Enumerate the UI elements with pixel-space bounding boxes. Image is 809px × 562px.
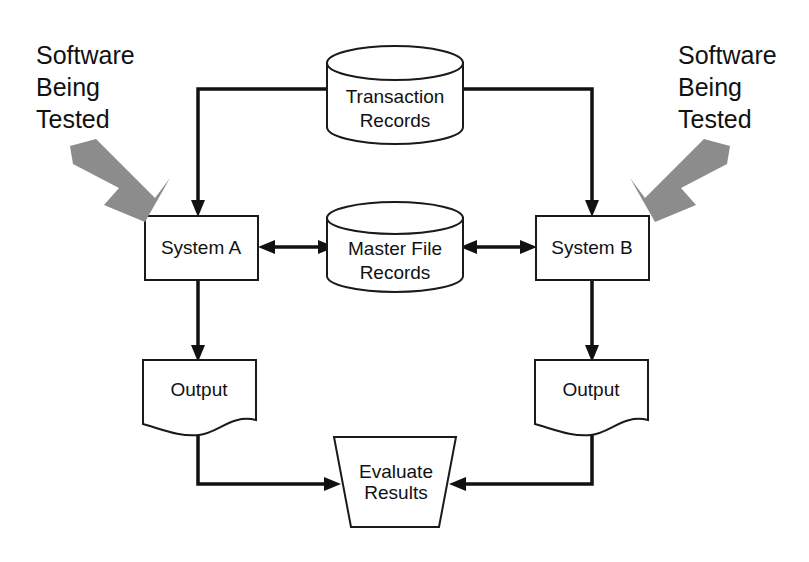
- annotation-left-line-1: Software: [36, 41, 135, 69]
- node-system-a-label: System A: [161, 237, 242, 258]
- annotation-right-line-3: Tested: [678, 105, 752, 133]
- node-system-b-label: System B: [551, 237, 632, 258]
- node-transaction-records-label-line-2: Records: [360, 110, 431, 131]
- node-output-a-label: Output: [170, 379, 228, 400]
- node-transaction-records[interactable]: Transaction Records: [327, 46, 463, 144]
- node-evaluate-results[interactable]: Evaluate Results: [334, 437, 456, 527]
- annotation-left-line-2: Being: [36, 73, 100, 101]
- annotation-right-line-2: Being: [678, 73, 742, 101]
- diagram-root: Transaction Records Master File Records …: [0, 0, 809, 562]
- node-system-b[interactable]: System B: [536, 216, 649, 280]
- annotation-left-line-3: Tested: [36, 105, 110, 133]
- node-transaction-records-label-line-1: Transaction: [346, 86, 445, 107]
- diagram-canvas: Transaction Records Master File Records …: [0, 0, 809, 562]
- node-evaluate-results-label-line-2: Results: [364, 482, 427, 503]
- node-master-file-records-label-line-1: Master File: [348, 238, 442, 259]
- node-evaluate-results-label-line-1: Evaluate: [359, 461, 433, 482]
- node-output-b-label: Output: [562, 379, 620, 400]
- node-master-file-records-label-line-2: Records: [360, 262, 431, 283]
- annotation-right-line-1: Software: [678, 41, 777, 69]
- node-system-a[interactable]: System A: [145, 216, 258, 280]
- node-master-file-records[interactable]: Master File Records: [327, 202, 463, 292]
